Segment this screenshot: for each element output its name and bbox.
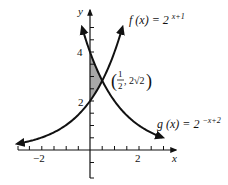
paren-right: ) xyxy=(146,71,152,92)
x-axis-label: x xyxy=(171,152,177,164)
point-y-value: , 2√2 xyxy=(124,75,145,86)
x-tick-label-2: 2 xyxy=(135,152,141,164)
y-tick-label-2: 2 xyxy=(78,96,84,108)
x-tick-label-neg2: −2 xyxy=(33,152,45,164)
g-label: g (x) = 2 −x+2 xyxy=(157,116,221,131)
point-x-numerator: 1 xyxy=(118,69,123,79)
y-tick-label-4: 4 xyxy=(77,46,83,58)
g-label-lhs: g (x) = 2 xyxy=(157,117,199,131)
f-label: f (x) = 2 x+1 xyxy=(129,12,185,27)
g-label-exp: −x+2 xyxy=(202,116,220,125)
f-label-exp: x+1 xyxy=(171,12,185,21)
intersection-label: ( 1 2 , 2√2 ) xyxy=(111,69,152,92)
paren-left: ( xyxy=(111,71,117,92)
y-axis-label: y xyxy=(77,5,83,17)
point-x-denominator: 2 xyxy=(118,81,123,91)
f-label-lhs: f (x) = 2 xyxy=(129,13,169,27)
labels-layer: y x 4 2 −2 2 f (x) = 2 x+1 g (x) = 2 −x+… xyxy=(0,0,228,185)
